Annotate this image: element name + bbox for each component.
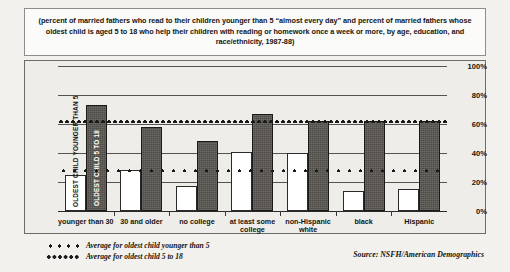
chart-figure: (percent of married fathers who read to … xyxy=(0,0,510,272)
bar-group xyxy=(114,66,170,211)
x-axis-tick-mark xyxy=(169,211,170,216)
average-reference-line xyxy=(58,168,447,172)
bar xyxy=(287,153,308,211)
legend-label: Average for oldest child younger than 5 xyxy=(86,241,209,250)
x-axis-tick-mark xyxy=(225,211,226,216)
x-axis-tick-mark xyxy=(280,211,281,216)
x-axis-label: black xyxy=(336,218,392,226)
bar xyxy=(308,121,329,211)
legend-swatch-avg-young xyxy=(46,244,80,248)
chart-legend: Average for oldest child younger than 5A… xyxy=(46,240,306,262)
bar xyxy=(176,186,197,211)
bar xyxy=(252,114,273,211)
legend-label: Average for oldest child 5 to 18 xyxy=(86,252,183,261)
legend-item: Average for oldest child 5 to 18 xyxy=(46,251,306,262)
bar xyxy=(398,189,419,211)
y-axis-tick-label: 80% xyxy=(472,91,487,100)
average-reference-line xyxy=(58,119,447,123)
y-axis-tick-label: 20% xyxy=(472,178,487,187)
bar-group xyxy=(169,66,225,211)
bar-group xyxy=(336,66,392,211)
source-note: Source: NSFH/American Demographics xyxy=(353,250,484,259)
legend-swatch-avg-older xyxy=(46,255,80,259)
y-axis-tick-label: 40% xyxy=(472,149,487,158)
plot-frame: 0%20%40%60%80%100%OLDEST CHILD YOUNGER T… xyxy=(24,60,486,234)
x-axis-label: younger than 30 xyxy=(58,218,114,226)
y-axis-tick-label: 60% xyxy=(472,120,487,129)
x-axis-label: 30 and older xyxy=(114,218,170,226)
x-axis-label: non-Hispanic white xyxy=(280,218,336,235)
bar xyxy=(120,170,141,211)
x-axis-tick-mark xyxy=(336,211,337,216)
x-axis-tick-mark xyxy=(114,211,115,216)
x-axis-label: at least some college xyxy=(225,218,281,235)
bar xyxy=(197,141,218,211)
page-title: (percent of married fathers who read to … xyxy=(31,16,479,47)
gridline-0 xyxy=(58,211,447,212)
bar xyxy=(343,191,364,211)
bar xyxy=(364,121,385,211)
chart-title-panel: (percent of married fathers who read to … xyxy=(24,8,486,56)
x-axis-tick-mark xyxy=(391,211,392,216)
bar-group xyxy=(280,66,336,211)
y-axis-tick-label: 100% xyxy=(468,62,487,71)
x-axis-label: Hispanic xyxy=(391,218,447,226)
legend-item: Average for oldest child younger than 5 xyxy=(46,240,306,251)
bar xyxy=(419,121,440,211)
bar-series-label: OLDEST CHILD YOUNGER THAN 5 xyxy=(72,96,79,207)
bar-group xyxy=(225,66,281,211)
y-axis-tick-label: 0% xyxy=(476,207,487,216)
bar: OLDEST CHILD YOUNGER THAN 5 xyxy=(65,175,86,211)
plot-area: 0%20%40%60%80%100%OLDEST CHILD YOUNGER T… xyxy=(58,66,447,211)
bar-group: OLDEST CHILD YOUNGER THAN 5OLDEST CHILD … xyxy=(58,66,114,211)
x-axis-label: no college xyxy=(169,218,225,226)
bar-group xyxy=(391,66,447,211)
bar xyxy=(231,152,252,211)
